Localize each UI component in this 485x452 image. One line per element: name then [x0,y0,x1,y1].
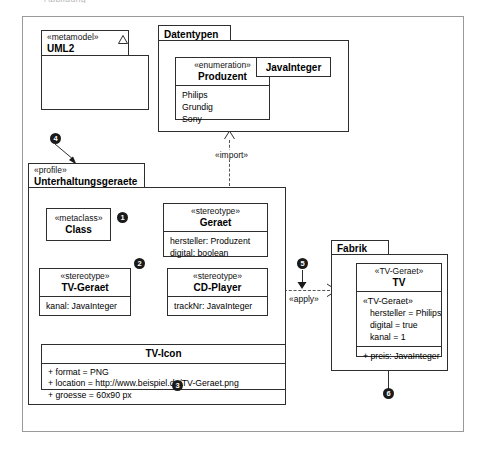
class-attributes-tvgeraet: kanal: JavaInteger [40,296,130,315]
class-stereotype-cdplayer: «stereotype» [172,272,263,282]
class-name-tvicon: TV-Icon [46,348,281,360]
class-attributes-tvicon: + format = PNG + location = http://www.b… [42,363,285,405]
package-stereotype-uml2: «metamodel» [47,33,122,43]
package-body-uml2 [41,55,149,110]
badge-3: 3 [172,380,183,391]
class-stereotype-tv: «TV-Geraet» [361,267,437,277]
edge-label-import: «import» [214,150,249,160]
uml-profile-diagram-screenshot: Abbildung «metamodel» UML2 Datentypen «e… [0,0,485,452]
enum-literal: Sony [182,113,264,125]
class-header-javainteger: JavaInteger [257,58,330,77]
import-dependency-line [229,140,230,186]
class-stereotype-geraet: «stereotype» [168,207,263,217]
badge-5: 5 [297,258,308,269]
class-slots-tv: «TV-Geraet» hersteller = Philips digital… [357,291,441,346]
class-name-tv: TV [361,277,437,289]
class-name-geraet: Geraet [168,217,263,229]
package-stereotype-profile: «profile» [34,166,138,176]
package-name-datentypen: Datentypen [159,26,230,43]
class-attributes-cdplayer: trackNr: JavaInteger [168,296,267,315]
triangle-icon [113,35,123,43]
enum-literal: Philips [182,89,264,101]
attribute: digital: boolean [170,247,262,259]
slot: digital = true [363,319,436,331]
class-header-tv: «TV-Geraet» TV [357,264,441,291]
class-header-metaclass: «metaclass» Class [47,209,110,238]
class-name-cdplayer: CD-Player [172,282,263,294]
attribute: + format = PNG [48,367,280,379]
edge-label-apply: «apply» [288,294,320,304]
class-box-metaclass: «metaclass» Class [46,208,111,241]
attribute: + location = http://www.beispiel.de/TV-G… [48,378,280,390]
package-name-uml2: UML2 [47,43,122,54]
class-name-javainteger: JavaInteger [261,62,326,74]
attribute: trackNr: JavaInteger [174,300,262,312]
class-header-tvicon: TV-Icon [42,345,285,363]
class-box-tvicon: TV-Icon + format = PNG + location = http… [41,344,286,390]
package-name-profile: Unterhaltungsgeraete [34,176,138,187]
class-box-cdplayer: «stereotype» CD-Player trackNr: JavaInte… [167,268,268,316]
package-tab-uml2: «metamodel» UML2 [41,30,129,56]
attribute: kanal: JavaInteger [46,300,125,312]
badge-5-arrowhead-icon [297,282,308,291]
attribute: + groesse = 60x90 px [48,390,280,402]
package-name-fabrik: Fabrik [332,241,388,256]
package-tab-datentypen: Datentypen [158,25,231,41]
package-tab-profile: «profile» Unterhaltungsgeraete [28,163,145,188]
slot-header: «TV-Geraet» [363,295,436,307]
package-tab-fabrik: Fabrik [331,240,389,255]
slot: kanal = 1 [363,331,436,343]
class-box-tvgeraet: «stereotype» TV-Geraet kanal: JavaIntege… [39,268,131,316]
class-stereotype-metaclass: «metaclass» [51,214,106,224]
class-name-metaclass: Class [51,224,106,236]
class-literals-produzent: Philips Grundig Sony [176,85,269,128]
class-header-geraet: «stereotype» Geraet [164,204,267,231]
slot: hersteller = Philips [363,307,436,319]
badge-6: 6 [383,388,394,399]
class-stereotype-tvgeraet: «stereotype» [44,272,126,282]
class-box-javainteger: JavaInteger [256,57,331,77]
badge-4: 4 [50,133,61,144]
class-attributes-geraet: hersteller: Produzent digital: boolean [164,231,267,262]
class-stereotype-produzent: «enumeration» [180,61,265,71]
cropped-header-text: Abbildung [44,0,86,3]
operation: + preis: JavaInteger [363,350,436,362]
class-name-tvgeraet: TV-Geraet [44,282,126,294]
badge-2: 2 [134,258,145,269]
class-header-tvgeraet: «stereotype» TV-Geraet [40,269,130,296]
class-header-cdplayer: «stereotype» CD-Player [168,269,267,296]
attribute: hersteller: Produzent [170,235,262,247]
class-box-geraet: «stereotype» Geraet hersteller: Produzen… [163,203,268,257]
badge-1: 1 [117,212,128,223]
class-name-produzent: Produzent [180,71,265,83]
enum-literal: Grundig [182,101,264,113]
class-operations-tv: + preis: JavaInteger [357,346,441,365]
class-box-tv: «TV-Geraet» TV «TV-Geraet» hersteller = … [356,263,442,357]
